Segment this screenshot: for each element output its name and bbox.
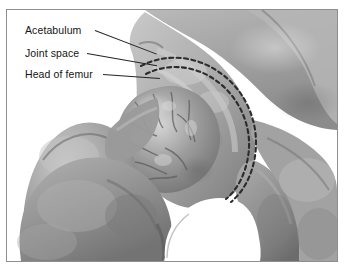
label-layer: Acetabulum Joint space Head of femur [7, 10, 337, 261]
leader-line-head-of-femur [103, 74, 160, 79]
leader-line-joint-space [87, 53, 157, 66]
label-acetabulum: Acetabulum [25, 24, 81, 36]
hip-joint-figure: Acetabulum Joint space Head of femur [0, 0, 345, 269]
label-joint-space: Joint space [25, 47, 79, 59]
figure-frame: Acetabulum Joint space Head of femur [6, 9, 338, 262]
label-head-of-femur: Head of femur [25, 68, 93, 80]
leader-line-acetabulum [95, 30, 157, 55]
